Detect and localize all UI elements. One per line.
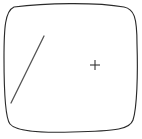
figure-canvas <box>0 0 142 139</box>
figure-svg <box>0 0 142 139</box>
rounded-square-outline-shape <box>4 4 137 133</box>
